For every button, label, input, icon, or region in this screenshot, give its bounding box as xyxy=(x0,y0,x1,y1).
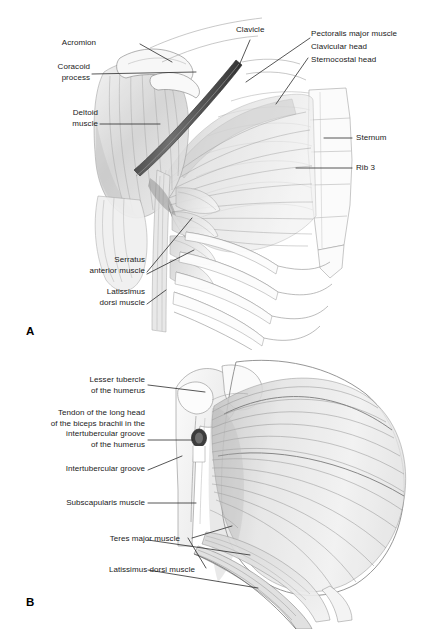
label-serratus-anterior: Serratus anterior muscle xyxy=(35,255,145,276)
panel-a: Acromion Coracoid process Deltoid muscle… xyxy=(0,0,428,350)
anatomy-figure: Acromion Coracoid process Deltoid muscle… xyxy=(0,0,428,629)
panel-letter-b: B xyxy=(26,596,34,608)
label-sternocostal-head: Sternocostal head xyxy=(311,55,428,66)
upper-arm-shape xyxy=(95,196,147,291)
label-deltoid-muscle: Deltoid muscle xyxy=(8,108,98,129)
label-latissimus-dorsi-muscle: Latissimus dorsi muscle xyxy=(50,565,195,576)
label-rib-3: Rib 3 xyxy=(356,163,426,174)
label-latissimus-dorsi: Latissimus dorsi muscle xyxy=(35,287,145,308)
label-clavicular-head: Clavicular head xyxy=(311,42,428,53)
xiphoid-process xyxy=(318,245,344,278)
panel-letter-a: A xyxy=(26,325,34,337)
label-intertubercular-groove: Intertubercular groove xyxy=(5,464,145,475)
label-biceps-tendon: Tendon of the long head of the biceps br… xyxy=(0,408,145,450)
label-subscapularis-muscle: Subscapularis muscle xyxy=(5,498,145,509)
label-pectoralis-major: Pectoralis major muscle xyxy=(311,29,428,40)
panel-b: Lesser tubercle of the humerus Tendon of… xyxy=(0,350,428,629)
label-sternum: Sternum xyxy=(356,133,426,144)
label-coracoid-process: Coracoid process xyxy=(0,62,90,83)
label-teres-major-muscle: Teres major muscle xyxy=(50,534,180,545)
panel-b-artwork xyxy=(176,360,406,629)
label-lesser-tubercle: Lesser tubercle of the humerus xyxy=(15,375,145,396)
subscapularis-muscle-shape xyxy=(209,378,406,592)
label-acromion: Acromion xyxy=(6,38,96,49)
